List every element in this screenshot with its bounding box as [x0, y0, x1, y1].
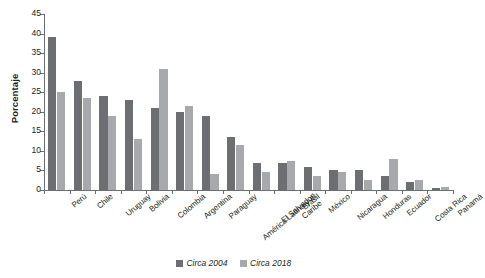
y-axis-title: Porcentaje [9, 54, 20, 144]
x-axis-category-label: Perú [70, 192, 89, 210]
x-axis-category-labels: PerúChileUruguayBoliviaColombiaArgentina… [44, 192, 464, 254]
bar [125, 100, 133, 190]
legend-item[interactable]: Circa 2004 [176, 258, 228, 268]
bar [432, 188, 440, 190]
bar [415, 180, 423, 190]
bar-group [329, 14, 346, 190]
bar [227, 137, 235, 190]
bar [278, 163, 286, 190]
bar [202, 116, 210, 190]
x-axis-category-label: Bolivia [148, 192, 172, 214]
y-axis-tick-label: 0 [36, 184, 41, 195]
bar [210, 174, 218, 190]
bar [57, 92, 65, 190]
bar-group [151, 14, 168, 190]
bar [151, 108, 159, 190]
x-axis-category-label: Colombia [176, 192, 208, 221]
bar [364, 180, 372, 190]
bar [134, 139, 142, 190]
bar [329, 170, 337, 190]
bar [48, 37, 56, 190]
x-axis-category-label: México [327, 192, 352, 215]
x-axis-category-label: Chile [96, 192, 116, 211]
legend-swatch-icon [176, 260, 183, 267]
bar [262, 172, 270, 190]
plot-area: 051015202530354045 [44, 14, 453, 190]
y-axis-tick-label: 5 [36, 164, 41, 175]
legend-item[interactable]: Circa 2018 [240, 258, 292, 268]
y-axis-tick-label: 30 [32, 67, 41, 78]
bar-group [253, 14, 270, 190]
bar [389, 159, 397, 190]
y-axis-tick-label: 10 [32, 145, 41, 156]
bar [441, 187, 449, 190]
bar [304, 167, 312, 190]
bar [253, 163, 261, 190]
bar [287, 161, 295, 190]
bar-group [355, 14, 372, 190]
bar-group [278, 14, 295, 190]
bar [185, 106, 193, 190]
chart-legend: Circa 2004Circa 2018 [0, 258, 467, 268]
bar-group [99, 14, 116, 190]
bar-group [304, 14, 321, 190]
bar-group [74, 14, 91, 190]
legend-swatch-icon [240, 260, 247, 267]
y-axis-tick-label: 20 [32, 106, 41, 117]
bar-group [202, 14, 219, 190]
y-axis-tick-label: 15 [32, 125, 41, 136]
bar-group [176, 14, 193, 190]
bar [338, 172, 346, 190]
bar [381, 176, 389, 190]
bar [108, 116, 116, 190]
bar [74, 81, 82, 191]
y-axis-tick-label: 40 [32, 28, 41, 39]
bar [176, 112, 184, 190]
bar [236, 145, 244, 190]
legend-label: Circa 2004 [186, 258, 227, 268]
bar [83, 98, 91, 190]
bar-group [227, 14, 244, 190]
legend-label: Circa 2018 [250, 258, 291, 268]
bar [406, 182, 414, 190]
y-axis-line [44, 14, 45, 190]
y-axis-tick-label: 25 [32, 86, 41, 97]
y-axis-tick-label: 35 [32, 47, 41, 58]
bar [99, 96, 107, 190]
bar-group [432, 14, 449, 190]
bar-group [125, 14, 142, 190]
bar-group [406, 14, 423, 190]
bar [313, 176, 321, 190]
bar [355, 170, 363, 190]
bar-group [48, 14, 65, 190]
bar [159, 69, 167, 190]
bar-group [381, 14, 398, 190]
y-axis-tick-label: 45 [32, 8, 41, 19]
